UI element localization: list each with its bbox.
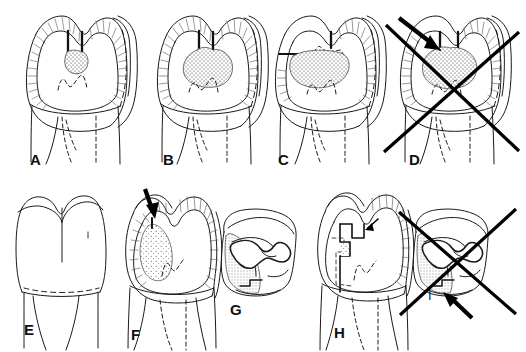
panel-label-b: B — [163, 152, 174, 167]
panel-i-cross-out — [399, 209, 516, 315]
panel-i-artwork — [413, 209, 488, 296]
panel-label-i: I — [428, 289, 432, 302]
panel-label-e: E — [24, 322, 34, 337]
panel-label-a: A — [30, 152, 41, 167]
panel-c-artwork — [275, 16, 386, 164]
panel-label-h: H — [334, 325, 345, 340]
panel-h-arrow — [365, 219, 378, 231]
panel-label-g: G — [230, 302, 242, 317]
dental-figure-plate: A B C D E F G H I — [0, 0, 526, 352]
panel-h-artwork — [318, 193, 414, 350]
panel-g-artwork — [221, 209, 296, 296]
panel-label-d: D — [409, 152, 420, 167]
panel-i-arrow — [443, 292, 472, 318]
panel-b-artwork — [157, 16, 268, 164]
panel-a-artwork — [26, 16, 137, 164]
figure-artwork — [0, 0, 526, 352]
panel-label-f: F — [131, 327, 140, 342]
panel-label-c: C — [278, 152, 289, 167]
